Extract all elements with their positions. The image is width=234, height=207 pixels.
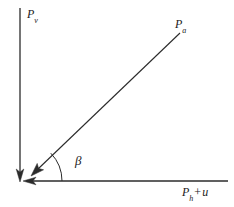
horizontal-axis-label-operator: + (193, 185, 202, 199)
horizontal-axis-vector (23, 177, 228, 185)
horizontal-axis-label-term: u (202, 185, 208, 199)
diagonal-vector-line (38, 33, 180, 169)
angle-arc (51, 153, 62, 181)
diagram-canvas (0, 0, 234, 207)
vertical-axis-label: Pv (27, 8, 38, 23)
diagonal-vector (31, 33, 180, 176)
vertical-axis-label-subscript: v (34, 16, 38, 25)
diagonal-vector-label-subscript: a (182, 26, 186, 35)
horizontal-axis-label: Ph+u (182, 186, 208, 201)
horizontal-axis-label-subscript: h (189, 194, 193, 203)
diagonal-vector-label: Pa (175, 18, 186, 33)
angle-label-beta: β (75, 154, 81, 167)
vector-diagram: Pv Pa Ph+u β (0, 0, 234, 207)
vertical-axis-vector (16, 8, 24, 182)
